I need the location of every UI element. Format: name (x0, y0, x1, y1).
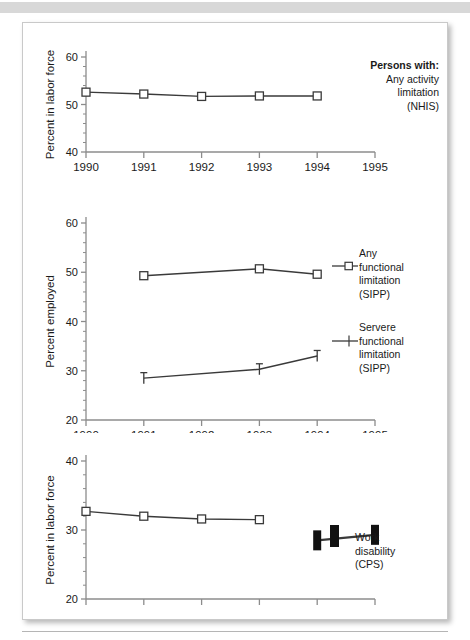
y-tick-label: 30 (66, 524, 78, 536)
legend-filled-bar-icon (330, 525, 339, 547)
legend-2a-line-3: limitation (359, 274, 404, 288)
y-tick-label: 20 (66, 414, 78, 426)
legend-2b-line-2: functional (359, 335, 404, 349)
data-point-marker (255, 265, 263, 273)
legend-3-line-2: disability (355, 545, 395, 559)
chart-panel-3: 203040Percent in labor force Work disabi… (23, 433, 449, 619)
legend-1-heading: Persons with: (321, 59, 439, 73)
y-tick-label: 50 (66, 266, 78, 278)
legend-2b-line-1: Servere (359, 321, 404, 335)
data-point-marker (313, 270, 321, 278)
y-tick-label: 40 (66, 146, 78, 158)
y-tick-label: 50 (66, 99, 78, 111)
y-tick-label: 30 (66, 365, 78, 377)
y-axis-label: Percent in labor force (44, 475, 56, 584)
legend-2a-line-2: functional (359, 261, 404, 275)
data-point-marker (140, 512, 148, 520)
legend-2b-line-4: (SIPP) (359, 362, 404, 376)
y-tick-label: 40 (66, 455, 78, 467)
data-point-marker (255, 92, 263, 100)
legend-1-line-2: limitation (321, 86, 439, 100)
data-point-marker (198, 515, 206, 523)
data-point-marker (140, 90, 148, 98)
x-tick-label: 1994 (304, 161, 330, 173)
legend-2a-line-4: (SIPP) (359, 288, 404, 302)
data-point-marker (313, 530, 321, 550)
data-point-marker (82, 507, 90, 515)
legend-1-line-3: (NHIS) (321, 100, 439, 114)
y-axis-label: Percent employed (44, 275, 56, 368)
x-tick-label: 1990 (73, 161, 99, 173)
data-point-marker (255, 516, 263, 524)
data-point-marker (313, 92, 321, 100)
legend-2a-line-1: Any (359, 247, 404, 261)
x-tick-label: 1991 (131, 161, 157, 173)
y-tick-label: 60 (66, 217, 78, 229)
figure-card: 405060199019911992199319941995Percent in… (22, 22, 448, 620)
x-tick-label: 1993 (247, 161, 273, 173)
chart-panel-2: 2030405060199019911992199319941995Percen… (23, 201, 449, 433)
legend-3-line-1: Work (355, 531, 395, 545)
y-tick-label: 20 (66, 593, 78, 605)
y-tick-label: 60 (66, 51, 78, 63)
legend-1-line-1: Any activity (321, 73, 439, 87)
legend-3-line-3: (CPS) (355, 558, 395, 572)
chart-panel-1: 405060199019911992199319941995Percent in… (23, 23, 449, 201)
chart-2-legend-entry-1: Any functional limitation (SIPP) (331, 247, 404, 301)
footer-rule (22, 631, 448, 632)
chart-1-legend: Persons with: Any activity limitation (N… (321, 59, 439, 113)
legend-2b-line-3: limitation (359, 348, 404, 362)
y-tick-label: 40 (66, 316, 78, 328)
y-axis-label: Percent in labor force (44, 50, 56, 159)
chart-2-legend-entry-2: Servere functional limitation (SIPP) (331, 321, 404, 375)
legend-cross-icon (331, 321, 359, 348)
data-point-marker (198, 92, 206, 100)
chart-2-plot: 2030405060199019911992199319941995Percen… (23, 201, 449, 433)
legend-open-square-icon (331, 247, 359, 272)
data-point-marker (82, 88, 90, 96)
x-tick-label: 1992 (189, 161, 215, 173)
top-grey-band (0, 2, 470, 13)
data-point-marker (140, 272, 148, 280)
chart-3-legend: Work disability (CPS) (355, 531, 395, 572)
x-tick-label: 1995 (362, 161, 388, 173)
chart-3-plot: 203040Percent in labor force (23, 433, 449, 619)
